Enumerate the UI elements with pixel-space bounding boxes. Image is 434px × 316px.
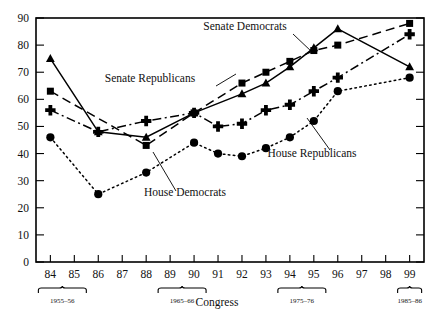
marker-house-republicans (309, 86, 319, 96)
x-tick-label: 84 (45, 268, 57, 280)
marker-house-republicans (404, 29, 414, 39)
x-tick-label: 96 (332, 268, 344, 280)
marker-house-democrats (334, 87, 342, 95)
x-tick-label: 92 (236, 268, 248, 280)
leader-line-house-republicans (307, 118, 330, 150)
marker-house-democrats (94, 190, 102, 198)
series-label-senate-republicans: Senate Republicans (105, 72, 196, 85)
y-tick-label: 70 (18, 66, 30, 78)
series-label-house-democrats: House Democrats (144, 186, 227, 198)
leader-line-senate-republicans (216, 74, 236, 86)
leader-line-senate-democrats (293, 34, 312, 52)
x-axis-ticks (50, 255, 409, 262)
era-bracket-label: 1965–66 (170, 297, 195, 305)
x-tick-label: 99 (404, 268, 416, 280)
era-bracket (38, 286, 86, 293)
x-tick-label: 90 (188, 268, 200, 280)
marker-house-republicans (141, 116, 151, 126)
x-tick-label: 91 (212, 268, 224, 280)
plot-area-border (36, 18, 424, 262)
y-tick-label: 50 (18, 120, 30, 132)
marker-house-republicans (213, 121, 223, 131)
marker-house-democrats (238, 152, 246, 160)
x-axis-tick-labels: 84858687888990919293949596979899 (45, 268, 416, 280)
y-axis-ticks (36, 18, 424, 262)
y-tick-label: 60 (18, 93, 30, 105)
congress-party-unity-chart: 0102030405060708090 84858687888990919293… (0, 0, 434, 316)
marker-house-republicans (237, 119, 247, 129)
y-tick-label: 30 (18, 175, 30, 187)
marker-house-democrats (406, 74, 414, 82)
era-bracket (158, 286, 206, 293)
marker-senate-republicans (286, 58, 293, 65)
series-label-senate-democrats: Senate Democrats (203, 20, 287, 32)
marker-senate-democrats (405, 62, 414, 70)
marker-senate-republicans (262, 69, 269, 76)
marker-house-democrats (190, 139, 198, 147)
marker-senate-republicans (310, 47, 317, 54)
marker-house-democrats (286, 133, 294, 141)
marker-senate-republicans (334, 42, 341, 49)
marker-house-democrats (142, 168, 150, 176)
marker-senate-republicans (47, 88, 54, 95)
marker-senate-republicans (143, 142, 150, 149)
plot-frame (36, 18, 424, 262)
series-line-senate-republicans (50, 23, 409, 145)
x-tick-label: 97 (356, 268, 368, 280)
era-bracket-label: 1955–56 (50, 297, 75, 305)
x-tick-label: 89 (164, 268, 176, 280)
y-tick-label: 80 (18, 39, 30, 51)
x-tick-label: 98 (380, 268, 392, 280)
era-bracket-label: 1975–76 (290, 297, 315, 305)
marker-house-republicans (189, 108, 199, 118)
y-tick-label: 40 (18, 148, 30, 160)
x-tick-label: 88 (140, 268, 152, 280)
marker-senate-democrats (333, 24, 342, 32)
series-label-house-republicans: House Republicans (267, 147, 357, 160)
marker-senate-republicans (238, 80, 245, 87)
x-tick-label: 86 (93, 268, 105, 280)
x-axis-title: Congress (196, 296, 239, 309)
x-tick-label: 87 (116, 268, 128, 280)
y-tick-label: 20 (18, 202, 30, 214)
x-tick-label: 93 (260, 268, 272, 280)
marker-house-democrats (46, 133, 54, 141)
era-bracket (398, 286, 422, 293)
marker-house-republicans (285, 100, 295, 110)
data-series-markers (45, 20, 415, 198)
y-tick-label: 90 (18, 12, 30, 24)
era-bracket-label: 1985–86 (397, 297, 422, 305)
x-tick-label: 94 (284, 268, 296, 280)
marker-senate-democrats (262, 78, 271, 86)
series-line-house-democrats (50, 78, 409, 195)
era-bracket (278, 286, 326, 293)
chart-canvas: 0102030405060708090 84858687888990919293… (0, 0, 434, 316)
y-axis-tick-labels: 0102030405060708090 (18, 12, 30, 268)
marker-house-republicans (261, 105, 271, 115)
x-tick-label: 95 (308, 268, 320, 280)
marker-house-democrats (214, 149, 222, 157)
data-series-lines (50, 23, 409, 194)
marker-senate-democrats (46, 54, 55, 62)
marker-house-republicans (333, 72, 343, 82)
marker-house-republicans (93, 127, 103, 137)
y-tick-label: 10 (18, 229, 30, 241)
x-tick-label: 85 (69, 268, 81, 280)
y-tick-label: 0 (23, 256, 29, 268)
marker-house-republicans (45, 105, 55, 115)
marker-senate-republicans (406, 20, 413, 27)
